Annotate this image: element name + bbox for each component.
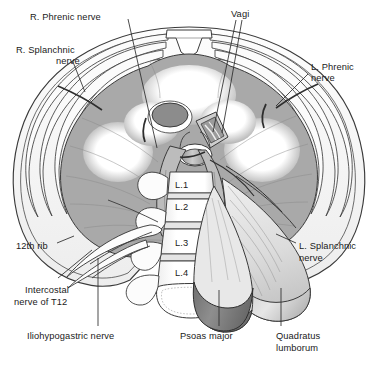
label-intercostal-nerve: Intercostal: [25, 285, 69, 296]
label-l-splanchnic-nerve: L. Splanchnic: [299, 241, 356, 252]
label-intercostal-nerve-line2: nerve of T12: [14, 297, 67, 308]
label-quadratus-lumborum: Quadratus: [276, 331, 320, 342]
label-vertebra-l4: L.4: [175, 268, 188, 279]
label-r-phrenic-nerve: R. Phrenic nerve: [30, 12, 101, 23]
label-vertebra-l2: L.2: [175, 202, 188, 213]
label-iliohypogastric-nerve: Iliohypogastric nerve: [27, 331, 114, 342]
label-psoas-major: Psoas major: [180, 331, 233, 342]
label-l-phrenic-nerve: L. Phrenic: [311, 62, 354, 73]
figure-caption: [6, 370, 366, 378]
label-r-splanchnic-nerve-line2: nerve: [56, 56, 80, 67]
caval-opening: [148, 101, 192, 133]
label-l-phrenic-nerve-line2: nerve: [311, 73, 335, 84]
anatomy-figure: R. Phrenic nerve Vagi R. Splanchnic nerv…: [0, 0, 378, 378]
label-vertebra-l3: L.3: [175, 238, 188, 249]
label-12th-rib: 12th rib: [16, 241, 48, 252]
label-quadratus-lumborum-line2: lumborum: [276, 343, 318, 354]
label-l-splanchnic-nerve-line2: nerve: [299, 253, 323, 264]
label-vertebra-l1: L.1: [175, 180, 188, 191]
label-r-splanchnic-nerve: R. Splanchnic: [16, 45, 75, 56]
label-vagi: Vagi: [231, 9, 249, 20]
